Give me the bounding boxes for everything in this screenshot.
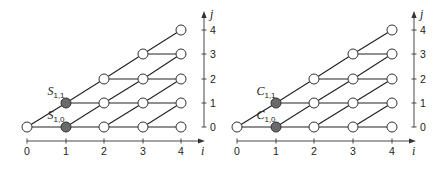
j-tick-label: 1 bbox=[420, 97, 426, 109]
lattice-node bbox=[176, 122, 186, 132]
j-tick-label: 0 bbox=[210, 121, 216, 133]
j-axis-label: j bbox=[418, 7, 424, 21]
diagonal-edge bbox=[104, 79, 143, 103]
lattice-diagram-s: 01234i01234jS1,1S1,0 bbox=[22, 7, 216, 158]
i-axis-arrow-icon bbox=[198, 138, 205, 143]
j-tick-label: 0 bbox=[420, 121, 426, 133]
lattice-node bbox=[176, 74, 186, 84]
lattice-node bbox=[176, 98, 186, 108]
lattice-node bbox=[387, 122, 397, 132]
diagonal-edge bbox=[353, 54, 392, 79]
lattice-node bbox=[387, 25, 397, 35]
lattice-node bbox=[99, 98, 109, 108]
node-label: C1,1 bbox=[256, 84, 276, 100]
diagonal-edge bbox=[314, 103, 353, 127]
j-tick-label: 4 bbox=[210, 24, 216, 36]
diagonal-edge bbox=[353, 79, 392, 103]
i-tick-label: 2 bbox=[101, 145, 107, 157]
lattice-node bbox=[99, 74, 109, 84]
j-tick-label: 3 bbox=[420, 48, 426, 60]
diagonal-edge bbox=[314, 54, 353, 79]
diagonal-edge bbox=[143, 103, 181, 127]
diagonal-edge bbox=[314, 79, 353, 103]
lattice-node bbox=[138, 49, 148, 59]
j-tick-label: 2 bbox=[420, 73, 426, 85]
diagonal-edge bbox=[66, 103, 104, 127]
lattice-diagram-c: 01234i01234jC1,1C1,0 bbox=[232, 7, 426, 158]
lattice-node bbox=[348, 122, 358, 132]
i-tick-label: 3 bbox=[140, 145, 146, 157]
i-tick-label: 3 bbox=[350, 145, 356, 157]
lattice-node bbox=[232, 122, 242, 132]
j-tick-label: 4 bbox=[420, 24, 426, 36]
i-tick-label: 0 bbox=[234, 145, 240, 157]
lattice-node bbox=[387, 49, 397, 59]
j-axis-label: j bbox=[208, 7, 214, 21]
lattice-node bbox=[309, 122, 319, 132]
axes: 01234i01234j bbox=[24, 7, 216, 158]
i-tick-label: 2 bbox=[311, 145, 317, 157]
diagonal-edge bbox=[353, 30, 392, 54]
diagonal-edge bbox=[66, 79, 104, 103]
i-tick-label: 0 bbox=[24, 145, 30, 157]
diagonal-edge bbox=[104, 103, 143, 127]
i-axis-arrow-icon bbox=[409, 138, 416, 143]
lattice-node bbox=[348, 98, 358, 108]
diagonal-edge bbox=[143, 79, 181, 103]
node-label: S1,0 bbox=[47, 108, 65, 124]
lattice-node bbox=[99, 122, 109, 132]
i-tick-label: 4 bbox=[389, 145, 395, 157]
lattice-node bbox=[387, 98, 397, 108]
lattice-node bbox=[387, 74, 397, 84]
lattice-diagrams: 01234i01234jS1,1S1,0 01234i01234jC1,1C1,… bbox=[0, 0, 448, 169]
i-tick-label: 4 bbox=[178, 145, 184, 157]
i-tick-label: 1 bbox=[273, 145, 279, 157]
j-axis-arrow-icon bbox=[201, 11, 206, 18]
lattice-node bbox=[138, 122, 148, 132]
diagonal-edge bbox=[143, 54, 181, 79]
lattice-node bbox=[176, 49, 186, 59]
diagonal-edge bbox=[104, 54, 143, 79]
lattice-node bbox=[348, 49, 358, 59]
i-axis-label: i bbox=[201, 144, 204, 158]
lattice-node bbox=[176, 25, 186, 35]
node-label: S1,1 bbox=[47, 84, 65, 100]
j-axis-arrow-icon bbox=[411, 11, 416, 18]
diagonal-edge bbox=[353, 103, 392, 127]
lattice-node bbox=[22, 122, 32, 132]
lattice-node bbox=[309, 98, 319, 108]
lattice-node bbox=[309, 74, 319, 84]
lattice-node bbox=[348, 74, 358, 84]
diagonal-edge bbox=[276, 103, 314, 127]
i-axis-label: i bbox=[412, 144, 415, 158]
diagonal-edge bbox=[276, 79, 314, 103]
diagonal-edge bbox=[143, 30, 181, 54]
lattice-node bbox=[138, 98, 148, 108]
i-tick-label: 1 bbox=[63, 145, 69, 157]
j-tick-label: 1 bbox=[210, 97, 216, 109]
node-label: C1,0 bbox=[256, 108, 276, 124]
j-tick-label: 2 bbox=[210, 73, 216, 85]
lattice-node bbox=[138, 74, 148, 84]
j-tick-label: 3 bbox=[210, 48, 216, 60]
